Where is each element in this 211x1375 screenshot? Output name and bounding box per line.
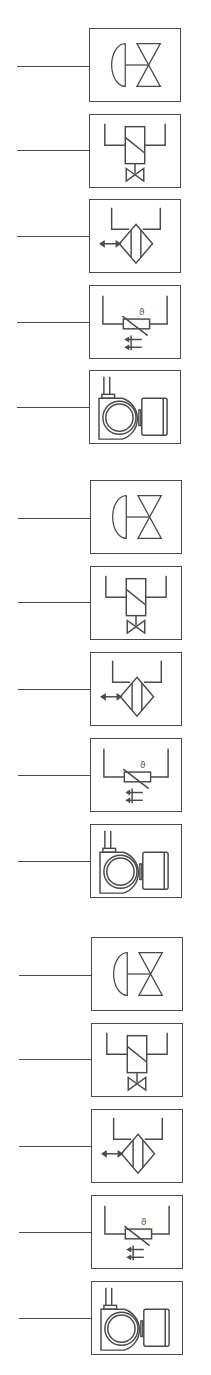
symbol-row: Temperature sensor (thermistor) ϑ	[0, 738, 211, 814]
connector-line	[17, 407, 89, 408]
symbol-row: Filter / heat exchanger	[0, 652, 211, 728]
thermistor-icon: ϑ	[91, 739, 181, 811]
filter-icon	[92, 1110, 182, 1182]
filter-icon	[91, 653, 181, 725]
thermistor-icon: ϑ	[92, 1196, 182, 1268]
connector-line	[17, 236, 89, 237]
solenoid-valve-symbol[interactable]: Solenoid valve	[90, 566, 182, 640]
pump-motor-icon	[90, 371, 180, 443]
symbol-row: Solenoid valve	[0, 114, 211, 190]
connector-line	[18, 602, 90, 603]
connector-line	[19, 1146, 91, 1147]
connector-line	[18, 861, 90, 862]
pump-motor-symbol[interactable]: Pump with motor	[90, 824, 182, 898]
diaphragm-valve-icon	[91, 481, 181, 553]
filter-icon	[90, 200, 180, 272]
symbol-row: Filter / heat exchanger	[0, 199, 211, 275]
symbol-row: Solenoid valve	[0, 566, 211, 642]
temperature-sensor-symbol[interactable]: Temperature sensor (thermistor) ϑ	[90, 738, 182, 812]
symbol-row: Pump with motor	[0, 824, 211, 900]
solenoid-valve-icon	[90, 115, 180, 187]
filter-symbol[interactable]: Filter / heat exchanger	[90, 652, 182, 726]
filter-symbol[interactable]: Filter / heat exchanger	[91, 1109, 183, 1183]
connector-line	[17, 66, 89, 67]
theta-glyph: ϑ	[141, 1217, 146, 1227]
diaphragm-valve-symbol[interactable]: Diaphragm actuated valve	[89, 28, 181, 102]
connector-line	[18, 518, 90, 519]
connector-line	[19, 975, 91, 976]
connector-line	[17, 150, 89, 151]
symbol-row: Diaphragm actuated valve	[0, 28, 211, 104]
diaphragm-valve-icon	[92, 938, 182, 1010]
symbol-row: Solenoid valve	[0, 1023, 211, 1099]
pump-motor-icon	[92, 1282, 182, 1354]
connector-line	[19, 1232, 91, 1233]
pump-motor-symbol[interactable]: Pump with motor	[89, 370, 181, 444]
connector-line	[17, 322, 89, 323]
symbol-row: Temperature sensor (thermistor) ϑ	[0, 285, 211, 361]
pump-motor-symbol[interactable]: Pump with motor	[91, 1281, 183, 1355]
symbol-row: Diaphragm actuated valve	[0, 937, 211, 1013]
connector-line	[19, 1318, 91, 1319]
thermistor-icon: ϑ	[90, 286, 180, 358]
symbol-row: Pump with motor	[0, 1281, 211, 1357]
diaphragm-valve-symbol[interactable]: Diaphragm actuated valve	[91, 937, 183, 1011]
theta-glyph: ϑ	[139, 307, 144, 317]
temperature-sensor-symbol[interactable]: Temperature sensor (thermistor) ϑ	[89, 285, 181, 359]
solenoid-valve-icon	[91, 567, 181, 639]
symbol-row: Temperature sensor (thermistor) ϑ	[0, 1195, 211, 1271]
connector-line	[18, 775, 90, 776]
symbol-row: Diaphragm actuated valve	[0, 480, 211, 556]
pump-motor-icon	[91, 825, 181, 897]
solenoid-valve-symbol[interactable]: Solenoid valve	[91, 1023, 183, 1097]
symbol-row: Filter / heat exchanger	[0, 1109, 211, 1185]
solenoid-valve-symbol[interactable]: Solenoid valve	[89, 114, 181, 188]
solenoid-valve-icon	[92, 1024, 182, 1096]
theta-glyph: ϑ	[140, 760, 145, 770]
connector-line	[18, 689, 90, 690]
diaphragm-valve-symbol[interactable]: Diaphragm actuated valve	[90, 480, 182, 554]
filter-symbol[interactable]: Filter / heat exchanger	[89, 199, 181, 273]
temperature-sensor-symbol[interactable]: Temperature sensor (thermistor) ϑ	[91, 1195, 183, 1269]
symbol-row: Pump with motor	[0, 370, 211, 446]
connector-line	[19, 1059, 91, 1060]
diaphragm-valve-icon	[90, 29, 180, 101]
